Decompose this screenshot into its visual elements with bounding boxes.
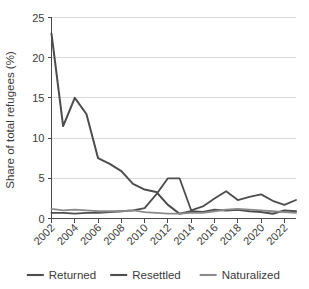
y-axis-title: Share of total refugees (%)	[4, 51, 16, 189]
x-tick-label: 2016	[194, 221, 220, 247]
chart-canvas: 0510152025 20022004200620082010201220142…	[0, 0, 309, 289]
x-tick-label: 2018	[217, 221, 243, 247]
x-tick-label: 2010	[124, 221, 150, 247]
series-line-returned	[52, 34, 297, 214]
y-axis-title-group: Share of total refugees (%)	[4, 51, 16, 189]
legend-label-returned: Returned	[49, 269, 96, 281]
line-chart: 0510152025 20022004200620082010201220142…	[0, 0, 309, 289]
x-tick-label: 2008	[101, 221, 127, 247]
x-tick-label: 2020	[241, 221, 267, 247]
x-axis-group: 2002200420062008201020122014201620182020…	[31, 219, 296, 248]
x-tick-label: 2002	[31, 221, 57, 247]
y-tick-label: 15	[32, 92, 44, 104]
y-tick-label: 5	[38, 172, 44, 184]
series-group	[52, 34, 297, 214]
legend-label-naturalized: Naturalized	[222, 269, 280, 281]
x-tick-label: 2006	[78, 221, 104, 247]
x-tick-label: 2012	[148, 221, 174, 247]
y-axis-group: 0510152025	[32, 12, 51, 225]
y-tick-label: 25	[32, 12, 44, 24]
legend: ReturnedResettledNaturalized	[27, 269, 280, 281]
y-tick-label: 10	[32, 132, 44, 144]
x-tick-label: 2022	[264, 221, 290, 247]
y-tick-label: 0	[38, 213, 44, 225]
legend-label-resettled: Resettled	[132, 269, 181, 281]
y-tick-label: 20	[32, 52, 44, 64]
x-tick-label: 2004	[54, 221, 80, 247]
x-tick-label: 2014	[171, 221, 197, 247]
